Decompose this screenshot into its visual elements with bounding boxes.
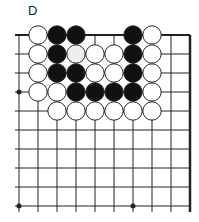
black-stone[interactable]	[124, 64, 142, 82]
white-stone[interactable]	[29, 26, 47, 44]
white-stone[interactable]	[29, 64, 47, 82]
white-stone[interactable]	[86, 64, 104, 82]
white-stone[interactable]	[143, 102, 161, 120]
white-stone[interactable]	[124, 102, 142, 120]
white-stone[interactable]	[29, 83, 47, 101]
star-point	[131, 204, 136, 209]
white-stone[interactable]	[86, 45, 104, 63]
white-stone[interactable]	[67, 102, 85, 120]
white-stone[interactable]	[143, 83, 161, 101]
star-point	[17, 90, 22, 95]
white-stone[interactable]	[105, 45, 123, 63]
white-stone[interactable]	[86, 102, 104, 120]
black-stone[interactable]	[48, 45, 66, 63]
white-stone[interactable]	[105, 64, 123, 82]
white-stone[interactable]	[143, 26, 161, 44]
go-board[interactable]	[0, 0, 199, 222]
white-stone[interactable]	[67, 45, 85, 63]
black-stone[interactable]	[124, 45, 142, 63]
white-stone[interactable]	[143, 45, 161, 63]
black-stone[interactable]	[67, 64, 85, 82]
black-stone[interactable]	[124, 83, 142, 101]
black-stone[interactable]	[48, 64, 66, 82]
black-stone[interactable]	[124, 26, 142, 44]
white-stone[interactable]	[48, 83, 66, 101]
white-stone[interactable]	[105, 102, 123, 120]
black-stone[interactable]	[67, 83, 85, 101]
black-stone[interactable]	[105, 83, 123, 101]
star-point	[17, 204, 22, 209]
white-stone[interactable]	[29, 45, 47, 63]
white-stone[interactable]	[143, 64, 161, 82]
black-stone[interactable]	[67, 26, 85, 44]
black-stone[interactable]	[86, 83, 104, 101]
black-stone[interactable]	[48, 26, 66, 44]
white-stone[interactable]	[48, 102, 66, 120]
